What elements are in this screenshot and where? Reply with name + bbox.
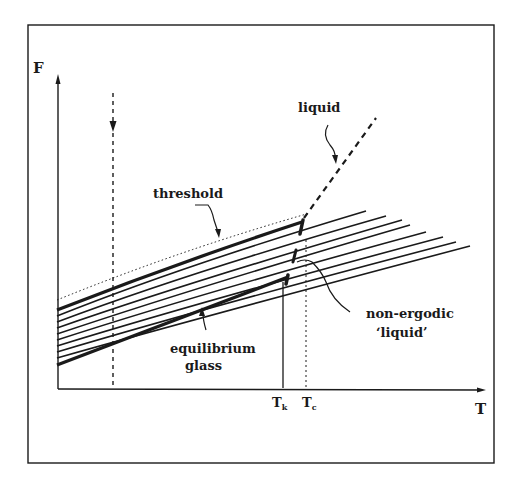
non-ergodic-label-line2: ‘liquid’ — [376, 325, 428, 340]
tk-label: Tk — [272, 395, 288, 412]
threshold-label: threshold — [153, 186, 223, 201]
free-energy-diagram: F T Tk Tc threshold — [0, 0, 532, 504]
liquid-pointer-arrow-icon — [332, 155, 338, 164]
transition-marks — [286, 220, 303, 284]
threshold-pointer-arrow-icon — [215, 229, 221, 238]
equilibrium-label-line2: glass — [185, 358, 222, 373]
down-arrow-icon — [110, 121, 117, 132]
y-axis-arrow-icon — [56, 74, 61, 84]
threshold-curve — [57, 222, 302, 310]
x-axis-arrow-icon — [477, 388, 486, 393]
upper-bound-dotted-curve — [57, 213, 310, 300]
liquid-label: liquid — [298, 100, 340, 115]
non-ergodic-pointer — [297, 260, 350, 312]
non-ergodic-label-line1: non-ergodic — [366, 306, 454, 321]
threshold-pointer — [195, 205, 218, 232]
tc-label: Tc — [302, 395, 317, 412]
liquid-dashed-line — [304, 118, 376, 218]
x-axis — [58, 388, 486, 393]
equilibrium-label-line1: equilibrium — [170, 341, 256, 356]
liquid-pointer — [325, 125, 335, 158]
y-axis — [56, 74, 61, 389]
x-axis-label: T — [475, 400, 487, 418]
y-axis-label: F — [33, 59, 44, 77]
